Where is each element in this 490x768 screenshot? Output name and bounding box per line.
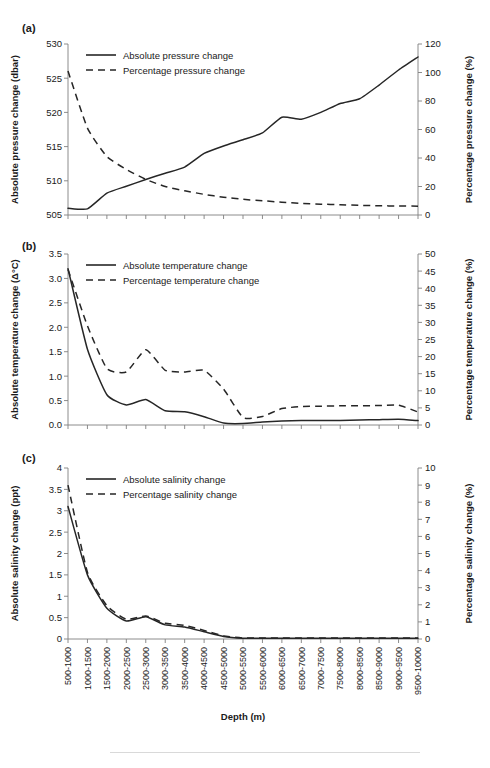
left-axis-tick-label: 4: [57, 462, 62, 473]
left-axis-tick-label: 525: [46, 73, 62, 84]
left-axis-tick-label: 505: [46, 209, 62, 220]
right-axis-title: Percentage pressure change (%): [463, 56, 474, 203]
left-axis-tick-label: 0.5: [49, 395, 62, 406]
series-line-absolute: [68, 57, 418, 209]
x-axis-tick-label: 9000-9500: [394, 647, 404, 690]
chart-panel-b: (b) 0.00.51.01.52.02.53.03.5051015202530…: [0, 240, 490, 445]
left-axis-tick-label: 2.5: [49, 297, 62, 308]
series-line-absolute: [68, 506, 418, 638]
right-axis-tick-label: 10: [425, 385, 436, 396]
right-axis-tick-label: 1: [425, 616, 430, 627]
x-axis-tick-label: 4000-4500: [199, 647, 209, 690]
x-axis-tick-label: 8500-9000: [374, 647, 384, 690]
right-axis-tick-label: 5: [425, 548, 430, 559]
left-axis-tick-label: 1: [57, 591, 62, 602]
x-axis-tick-label: 1500-2000: [102, 647, 112, 690]
x-axis-tick-label: 2000-2500: [122, 647, 132, 690]
x-axis-tick-label: 5000-5500: [238, 647, 248, 690]
right-axis-tick-label: 40: [425, 283, 436, 294]
x-axis-tick-label: 2500-3000: [141, 647, 151, 690]
right-axis-tick-label: 80: [425, 95, 436, 106]
right-axis-tick-label: 50: [425, 248, 436, 259]
right-axis-tick-label: 120: [425, 38, 441, 49]
left-axis-tick-label: 0.0: [49, 419, 62, 430]
x-axis-tick-label: 6000-6500: [277, 647, 287, 690]
left-axis-tick-label: 515: [46, 141, 62, 152]
x-axis-tick-label: 9500-10000: [413, 647, 423, 695]
temperature-change-chart: 0.00.51.01.52.02.53.03.50510152025303540…: [0, 240, 490, 445]
left-axis-tick-label: 510: [46, 175, 62, 186]
left-axis-title: Absolute temperature change (Δ°C): [9, 259, 20, 420]
left-axis-tick-label: 3.5: [49, 484, 62, 495]
right-axis-tick-label: 45: [425, 266, 436, 277]
right-axis-tick-label: 10: [425, 462, 436, 473]
right-axis-tick-label: 7: [425, 514, 430, 525]
x-axis-tick-label: 7000-7500: [316, 647, 326, 690]
right-axis-tick-label: 6: [425, 531, 430, 542]
x-axis-tick-label: 4500-5000: [219, 647, 229, 690]
legend-label-percentage: Percentage salinity change: [123, 489, 237, 500]
series-line-percentage: [68, 269, 418, 418]
right-axis-tick-label: 9: [425, 480, 430, 491]
right-axis-tick-label: 0: [425, 209, 430, 220]
right-axis-tick-label: 25: [425, 334, 436, 345]
left-axis-tick-label: 0.5: [49, 612, 62, 623]
x-axis-tick-label: 7500-8000: [335, 647, 345, 690]
left-axis-tick-label: 1.5: [49, 569, 62, 580]
right-axis-tick-label: 20: [425, 351, 436, 362]
right-axis-tick-label: 0: [425, 633, 430, 644]
x-axis-title: Depth (m): [221, 711, 265, 722]
legend-label-percentage: Percentage temperature change: [123, 275, 259, 286]
left-axis-tick-label: 2.0: [49, 322, 62, 333]
left-axis-title: Absolute pressure change (dbar): [9, 55, 20, 204]
chart-panel-a: (a) 505510515520525530020406080100120Abs…: [0, 22, 490, 234]
legend-label-percentage: Percentage pressure change: [123, 65, 245, 76]
left-axis-tick-label: 0: [57, 633, 62, 644]
series-line-absolute: [68, 269, 418, 424]
left-axis-tick-label: 2.5: [49, 527, 62, 538]
legend-label-absolute: Absolute salinity change: [123, 474, 225, 485]
right-axis-tick-label: 5: [425, 402, 430, 413]
right-axis-tick-label: 15: [425, 368, 436, 379]
right-axis-tick-label: 8: [425, 497, 430, 508]
right-axis-tick-label: 40: [425, 152, 436, 163]
salinity-change-chart: 00.511.522.533.54012345678910Absolute sa…: [0, 452, 490, 742]
right-axis-tick-label: 2: [425, 599, 430, 610]
pressure-change-chart: 505510515520525530020406080100120Absolut…: [0, 22, 490, 234]
x-axis-tick-label: 3500-4000: [180, 647, 190, 690]
left-axis-tick-label: 1.0: [49, 371, 62, 382]
right-axis-title: Percentage salinity change (%): [463, 484, 474, 624]
right-axis-title: Percentage temperature change (%): [463, 258, 474, 420]
right-axis-tick-label: 0: [425, 419, 430, 430]
left-axis-title: Absolute salinity change (ppt): [9, 486, 20, 622]
series-line-percentage: [68, 71, 418, 206]
x-axis-tick-label: 500-1000: [63, 647, 73, 685]
left-axis-tick-label: 530: [46, 38, 62, 49]
x-axis-tick-label: 1000-1500: [83, 647, 93, 690]
right-axis-tick-label: 60: [425, 124, 436, 135]
series-line-percentage: [68, 485, 418, 638]
left-axis-tick-label: 1.5: [49, 346, 62, 357]
right-axis-tick-label: 100: [425, 67, 441, 78]
left-axis-tick-label: 2: [57, 548, 62, 559]
legend-label-absolute: Absolute pressure change: [123, 50, 233, 61]
left-axis-tick-label: 3: [57, 505, 62, 516]
left-axis-tick-label: 3.5: [49, 248, 62, 259]
right-axis-tick-label: 4: [425, 565, 430, 576]
left-axis-tick-label: 3.0: [49, 273, 62, 284]
x-axis-tick-label: 5500-6000: [258, 647, 268, 690]
right-axis-tick-label: 30: [425, 317, 436, 328]
x-axis-tick-label: 8000-8500: [355, 647, 365, 690]
chart-panel-c: (c) 00.511.522.533.54012345678910Absolut…: [0, 452, 490, 742]
legend-label-absolute: Absolute temperature change: [123, 260, 248, 271]
footer-divider: [110, 752, 420, 753]
x-axis-tick-label: 3000-3500: [160, 647, 170, 690]
right-axis-tick-label: 35: [425, 300, 436, 311]
left-axis-tick-label: 520: [46, 107, 62, 118]
right-axis-tick-label: 20: [425, 181, 436, 192]
x-axis-tick-label: 6500-7000: [297, 647, 307, 690]
right-axis-tick-label: 3: [425, 582, 430, 593]
